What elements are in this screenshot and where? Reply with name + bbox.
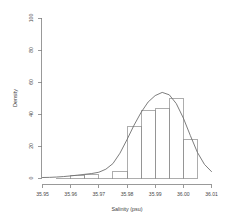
histogram-figure: 0 20 40 60 80 100 35.95 35.96 35.97 35.9…	[0, 0, 242, 222]
x-tick-label: 35.99	[149, 191, 162, 197]
histogram-bar	[169, 98, 183, 178]
chart-canvas: 0 20 40 60 80 100 35.95 35.96 35.97 35.9…	[0, 0, 242, 222]
x-tick-label: 36.01	[205, 191, 218, 197]
x-tick-label: 35.96	[64, 191, 77, 197]
y-tick-label: 40	[28, 111, 34, 117]
y-tick-label: 80	[28, 47, 34, 53]
x-tick-labels: 35.95 35.96 35.97 35.98 35.99 36.00 36.0…	[36, 191, 218, 197]
y-tick-label: 60	[28, 79, 34, 85]
y-tick-labels: 0 20 40 60 80 100	[28, 14, 34, 180]
y-tick-label: 100	[28, 14, 34, 23]
y-tick-label: 20	[28, 143, 34, 149]
x-tick-label: 35.98	[121, 191, 134, 197]
y-tick-marks	[38, 18, 42, 178]
x-axis-title: Salinity (psu)	[111, 206, 142, 212]
histogram-bar	[85, 174, 99, 178]
x-tick-label: 35.97	[92, 191, 105, 197]
histogram-bar	[141, 111, 155, 178]
x-tick-label: 36.00	[177, 191, 190, 197]
y-axis-title: Density	[12, 89, 18, 107]
histogram-bar	[183, 140, 197, 178]
histogram-bars	[57, 98, 198, 178]
histogram-bar	[155, 108, 169, 178]
y-tick-label: 0	[28, 176, 34, 179]
histogram-bar	[113, 172, 127, 178]
x-tick-marks	[43, 185, 212, 189]
x-tick-label: 35.95	[36, 191, 49, 197]
